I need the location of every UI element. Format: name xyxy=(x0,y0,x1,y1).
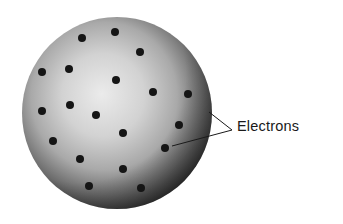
atom-diagram xyxy=(0,0,343,224)
electron-dot xyxy=(38,68,46,76)
electron-dot xyxy=(184,90,192,98)
electron-dot xyxy=(119,129,127,137)
electron-dot xyxy=(85,182,93,190)
leader-line xyxy=(209,112,232,130)
electron-dot xyxy=(175,121,183,129)
electron-dot xyxy=(76,155,84,163)
electron-dot xyxy=(66,101,74,109)
electron-dot xyxy=(149,88,157,96)
electrons-label: Electrons xyxy=(237,119,299,134)
electron-dot xyxy=(38,107,46,115)
electron-dot xyxy=(78,34,86,42)
electron-dot xyxy=(161,144,169,152)
electron-dot xyxy=(112,76,120,84)
electron-dot xyxy=(65,65,73,73)
sphere-rim-shade xyxy=(22,17,212,209)
electron-dot xyxy=(136,48,144,56)
electron-dot xyxy=(119,165,127,173)
electron-dot xyxy=(137,184,145,192)
electron-dot xyxy=(49,137,57,145)
electron-dot xyxy=(92,111,100,119)
electron-dot xyxy=(111,28,119,36)
